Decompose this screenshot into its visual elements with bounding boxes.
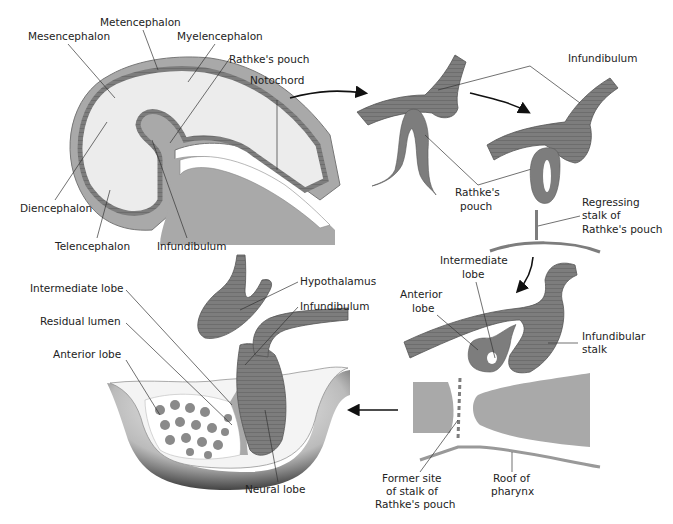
- label-residual-lumen: Residual lumen: [40, 315, 121, 327]
- arrow-stage2-to-3: [470, 93, 528, 112]
- adult-infundibulum: [253, 308, 348, 357]
- arrow-stage1-to-2: [290, 91, 365, 98]
- label-rathkes-pouch: Rathke's pouch: [229, 53, 309, 65]
- label-infundibular-l1: Infundibular: [582, 330, 646, 342]
- label-regressing-l2: stalk of: [582, 209, 621, 221]
- label-metencephalon: Metencephalon: [100, 16, 181, 28]
- stage2-panel: Rathke's pouch: [357, 55, 535, 212]
- label-infundibular-l2: stalk: [582, 343, 608, 355]
- label-mesencephalon: Mesencephalon: [28, 30, 110, 42]
- stage4-lumen: [487, 352, 497, 364]
- stage3-pouch-lumen: [543, 160, 551, 192]
- stage4-former-stalk: [458, 378, 460, 440]
- label-former-l1: Former site: [382, 472, 442, 484]
- label-roof-l2: pharynx: [491, 485, 534, 497]
- adult-panel: Intermediate lobe Residual lumen Anterio…: [30, 255, 376, 495]
- stage2-rathkes-pouch: [372, 109, 436, 195]
- label-former-l3: Rathke's pouch: [375, 498, 455, 510]
- label-intermediate-l2: lobe: [462, 268, 484, 280]
- label-hypothalamus: Hypothalamus: [300, 275, 376, 287]
- label-infundibulum-adult: Infundibulum: [300, 300, 369, 312]
- label-telencephalon: Telencephalon: [54, 240, 130, 252]
- label-infundibulum-stage3: Infundibulum: [568, 52, 637, 64]
- label-former-l2: of stalk of: [386, 485, 438, 497]
- label-myelencephalon: Myelencephalon: [177, 30, 263, 42]
- stage4-pharynx-right: [473, 373, 590, 447]
- stage3-roof-arc: [490, 243, 600, 252]
- pituitary-development-diagram: Metencephalon Mesencephalon Myelencephal…: [0, 0, 673, 524]
- label-roof-l1: Roof of: [493, 472, 530, 484]
- label-anterior-l1: Anterior: [400, 288, 443, 300]
- label-rathkes-l2: pouch: [460, 200, 492, 212]
- stage4-pharynx-left: [413, 382, 454, 433]
- label-regressing-l3: Rathke's pouch: [582, 223, 662, 235]
- label-anterior-l2: lobe: [412, 302, 434, 314]
- stage4-panel: Intermediate lobe Anterior lobe Infundib…: [375, 254, 646, 510]
- label-infundibulum-embryo: Infundibulum: [157, 240, 226, 252]
- label-rathkes-l1: Rathke's: [455, 186, 500, 198]
- label-neural-lobe: Neural lobe: [245, 483, 305, 495]
- label-notochord: Notochord: [250, 74, 304, 86]
- label-regressing-l1: Regressing: [582, 196, 640, 208]
- label-anterior-lobe: Anterior lobe: [53, 348, 121, 360]
- stage3-panel: Infundibulum Regressing stalk of Rathke'…: [438, 52, 662, 252]
- label-diencephalon: Diencephalon: [20, 202, 92, 214]
- stage3-regressing-stalk: [535, 210, 538, 240]
- label-intermediate-lobe: Intermediate lobe: [30, 282, 124, 294]
- label-intermediate-l1: Intermediate: [440, 254, 508, 266]
- stage4-roof-of-pharynx: [420, 447, 600, 467]
- arrow-stage3-to-4: [518, 257, 533, 291]
